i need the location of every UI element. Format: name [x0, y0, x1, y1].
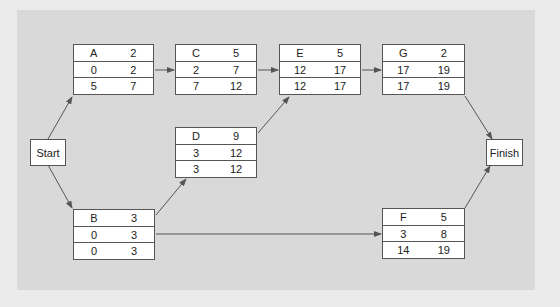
early-times-row: 0 3 — [74, 226, 154, 243]
late-finish: 7 — [114, 80, 154, 92]
early-times-row: 12 17 — [280, 61, 360, 78]
early-start: 12 — [280, 64, 320, 76]
start-node: Start — [30, 139, 66, 166]
late-times-row: 17 19 — [383, 77, 464, 94]
early-times-row: 3 8 — [383, 225, 464, 242]
late-start: 7 — [176, 80, 216, 92]
late-finish: 3 — [114, 245, 154, 257]
activity-node-a: A 2 0 2 5 7 — [73, 44, 154, 95]
late-times-row: 14 19 — [383, 241, 464, 258]
late-start: 17 — [383, 80, 424, 92]
activity-node-e: E 5 12 17 12 17 — [279, 44, 361, 95]
late-finish: 12 — [216, 80, 256, 92]
activity-duration: 5 — [424, 211, 465, 223]
activity-duration: 2 — [114, 47, 154, 59]
early-start: 0 — [74, 229, 114, 241]
activity-duration: 3 — [114, 212, 154, 224]
activity-name: A — [74, 47, 114, 59]
finish-node: Finish — [486, 139, 523, 166]
activity-name: F — [383, 211, 424, 223]
edge-b-d — [156, 179, 186, 215]
activity-name: C — [176, 47, 216, 59]
edge-g-finish — [465, 96, 492, 139]
early-start: 2 — [176, 64, 216, 76]
edge-f-finish — [465, 166, 490, 208]
activity-duration: 9 — [216, 130, 256, 142]
activity-name: G — [383, 47, 424, 59]
node-header-row: B 3 — [74, 210, 154, 226]
finish-label: Finish — [490, 147, 519, 159]
late-start: 0 — [74, 245, 114, 257]
late-start: 5 — [74, 80, 114, 92]
late-start: 14 — [383, 244, 424, 256]
late-times-row: 5 7 — [74, 77, 153, 94]
activity-duration: 2 — [424, 47, 465, 59]
early-finish: 8 — [424, 228, 465, 240]
edge-start-b — [48, 165, 72, 208]
early-finish: 7 — [216, 64, 256, 76]
edge-start-a — [48, 97, 72, 139]
late-start: 3 — [176, 163, 216, 175]
node-header-row: A 2 — [74, 45, 153, 61]
start-label: Start — [36, 147, 59, 159]
early-finish: 19 — [424, 64, 465, 76]
node-header-row: F 5 — [383, 209, 464, 225]
activity-node-c: C 5 2 7 7 12 — [175, 44, 257, 95]
late-finish: 19 — [424, 80, 465, 92]
late-times-row: 12 17 — [280, 77, 360, 94]
activity-name: E — [280, 47, 320, 59]
activity-name: B — [74, 212, 114, 224]
early-start: 0 — [74, 64, 114, 76]
early-times-row: 3 12 — [176, 144, 256, 161]
late-times-row: 0 3 — [74, 242, 154, 259]
early-start: 3 — [383, 228, 424, 240]
late-start: 12 — [280, 80, 320, 92]
edge-d-e — [258, 97, 289, 133]
early-finish: 2 — [114, 64, 154, 76]
activity-duration: 5 — [320, 47, 360, 59]
activity-duration: 5 — [216, 47, 256, 59]
node-header-row: G 2 — [383, 45, 464, 61]
activity-node-b: B 3 0 3 0 3 — [73, 209, 155, 260]
activity-node-g: G 2 17 19 17 19 — [382, 44, 465, 95]
activity-node-d: D 9 3 12 3 12 — [175, 127, 257, 178]
node-header-row: E 5 — [280, 45, 360, 61]
early-times-row: 2 7 — [176, 61, 256, 78]
early-finish: 17 — [320, 64, 360, 76]
late-finish: 19 — [424, 244, 465, 256]
early-start: 17 — [383, 64, 424, 76]
activity-name: D — [176, 130, 216, 142]
activity-node-f: F 5 3 8 14 19 — [382, 208, 465, 259]
early-times-row: 17 19 — [383, 61, 464, 78]
early-times-row: 0 2 — [74, 61, 153, 78]
node-header-row: C 5 — [176, 45, 256, 61]
early-finish: 3 — [114, 229, 154, 241]
early-start: 3 — [176, 147, 216, 159]
late-finish: 17 — [320, 80, 360, 92]
late-times-row: 7 12 — [176, 77, 256, 94]
node-header-row: D 9 — [176, 128, 256, 144]
late-times-row: 3 12 — [176, 160, 256, 177]
early-finish: 12 — [216, 147, 256, 159]
late-finish: 12 — [216, 163, 256, 175]
